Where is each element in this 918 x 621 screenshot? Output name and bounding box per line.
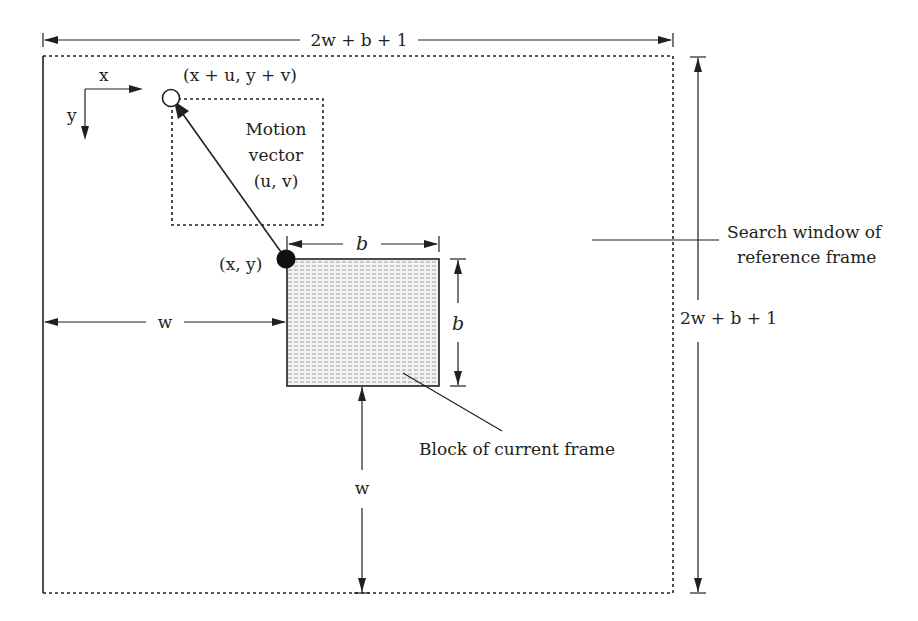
x-axis-arrow-icon xyxy=(129,85,143,93)
block-origin-label: (x, y) xyxy=(219,254,262,274)
current-block-rect xyxy=(287,259,439,386)
axes-indicator xyxy=(81,85,143,140)
target-point-label: (x + u, y + v) xyxy=(183,65,297,85)
axis-x-label: x xyxy=(99,65,109,85)
search-window-label-line1: Search window of xyxy=(727,222,883,242)
motion-vector-label-line3: (u, v) xyxy=(254,171,299,191)
left-offset-label: w xyxy=(158,312,173,332)
arrow-up-icon xyxy=(454,260,462,274)
arrow-right-icon xyxy=(658,36,672,44)
arrow-left-icon xyxy=(44,318,58,326)
block-caption-leader-line xyxy=(403,373,502,431)
arrow-right-icon xyxy=(424,240,438,248)
axis-y-label: y xyxy=(66,105,77,125)
right-height-label: 2w + b + 1 xyxy=(680,308,777,328)
arrow-left-icon xyxy=(44,36,58,44)
arrow-up-icon xyxy=(694,58,702,72)
motion-vector-label-line1: Motion xyxy=(245,119,306,139)
motion-vector-label-line2: vector xyxy=(248,145,304,165)
block-caption-label: Block of current frame xyxy=(419,439,615,459)
target-point-circle-icon xyxy=(163,90,180,107)
bottom-offset-label: w xyxy=(355,478,370,498)
y-axis-arrow-icon xyxy=(81,126,89,140)
motion-estimation-diagram: 2w + b + 1 2w + b + 1 x y (x + u, y + v)… xyxy=(0,0,918,621)
arrow-up-icon xyxy=(358,387,366,401)
search-window-label-line2: reference frame xyxy=(737,247,876,267)
block-height-label: b xyxy=(452,312,464,334)
arrow-down-icon xyxy=(454,371,462,385)
arrow-down-icon xyxy=(694,578,702,592)
block-width-label: b xyxy=(356,232,368,254)
block-origin-dot-icon xyxy=(277,250,296,269)
arrow-right-icon xyxy=(272,318,286,326)
top-width-label: 2w + b + 1 xyxy=(310,30,407,50)
arrow-left-icon xyxy=(288,240,302,248)
arrow-down-icon xyxy=(358,578,366,592)
